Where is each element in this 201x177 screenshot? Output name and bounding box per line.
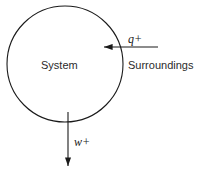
thermodynamics-system-diagram: System Surroundings q+ w+ [0,0,201,177]
diagram-canvas [0,0,201,177]
work-arrow-label: w+ [74,136,90,148]
heat-arrow-label: q+ [128,33,142,45]
system-label: System [41,60,78,71]
surroundings-label: Surroundings [128,60,193,71]
